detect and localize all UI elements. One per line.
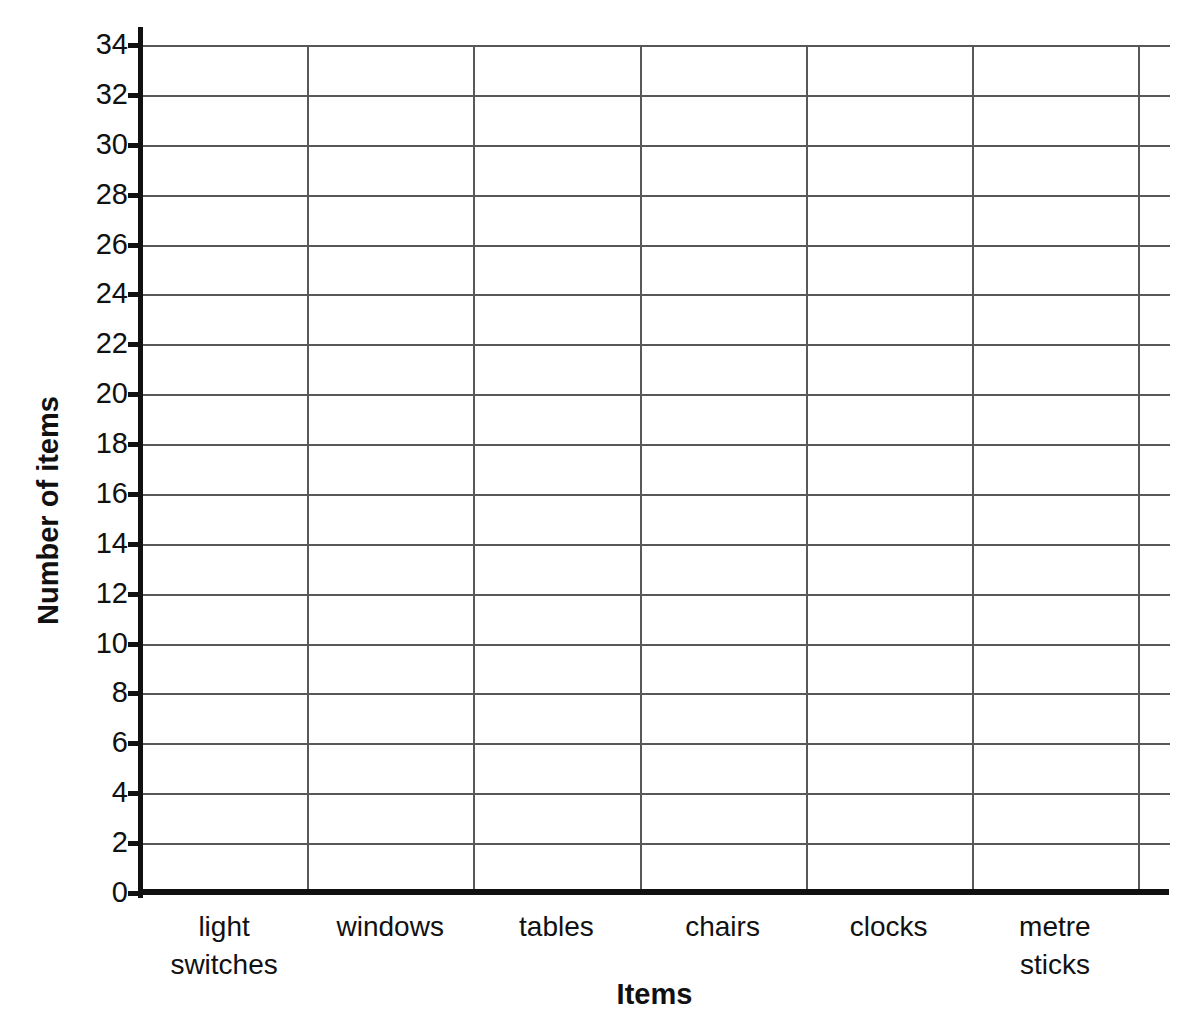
y-axis-tick <box>128 143 142 148</box>
y-axis-tick <box>128 841 142 846</box>
y-axis-tick <box>128 243 142 248</box>
gridline-horizontal <box>141 594 1170 596</box>
x-axis-category-label: clocks <box>806 908 972 946</box>
gridline-vertical <box>640 45 642 893</box>
x-axis-category-label-line: tables <box>473 908 639 946</box>
x-axis-category-label-line: clocks <box>806 908 972 946</box>
y-axis-tick-label: 22 <box>8 329 128 358</box>
y-axis-tick-label: 34 <box>8 30 128 59</box>
y-axis-tick-label: 16 <box>8 479 128 508</box>
y-axis-tick-label: 28 <box>8 180 128 209</box>
y-axis-tick-label: 14 <box>8 529 128 558</box>
y-axis-tick <box>128 791 142 796</box>
gridline-horizontal <box>141 95 1170 97</box>
y-axis-tick-label: 6 <box>8 728 128 757</box>
y-axis-tick-label: 32 <box>8 80 128 109</box>
x-axis-category-label-line: windows <box>307 908 473 946</box>
gridline-horizontal <box>141 743 1170 745</box>
gridline-horizontal <box>141 644 1170 646</box>
x-axis-category-label: lightswitches <box>141 908 307 984</box>
y-axis-tick-label: 26 <box>8 230 128 259</box>
gridline-vertical <box>806 45 808 893</box>
gridline-horizontal <box>141 294 1170 296</box>
y-axis-tick <box>128 193 142 198</box>
gridline-horizontal <box>141 195 1170 197</box>
gridline-vertical <box>473 45 475 893</box>
gridline-horizontal <box>141 45 1170 47</box>
y-axis-tick-label: 10 <box>8 629 128 658</box>
gridline-horizontal <box>141 444 1170 446</box>
y-axis-tick-label: 0 <box>8 878 128 907</box>
y-axis-line <box>138 27 143 898</box>
y-axis-tick <box>128 93 142 98</box>
x-axis-category-label: chairs <box>640 908 806 946</box>
y-axis-tick-label: 12 <box>8 579 128 608</box>
chart-page: Number of items 024681012141618202224262… <box>0 0 1184 1021</box>
gridline-vertical <box>972 45 974 893</box>
x-axis-category-label-line: metre <box>972 908 1138 946</box>
x-axis-category-label: metresticks <box>972 908 1138 984</box>
gridline-horizontal <box>141 344 1170 346</box>
gridline-horizontal <box>141 843 1170 845</box>
y-axis-tick <box>128 442 142 447</box>
y-axis-tick <box>128 392 142 397</box>
gridline-horizontal <box>141 494 1170 496</box>
y-axis-tick-label: 2 <box>8 828 128 857</box>
y-axis-tick-label: 20 <box>8 379 128 408</box>
x-axis-category-label: windows <box>307 908 473 946</box>
y-axis-tick <box>128 592 142 597</box>
gridline-horizontal <box>141 693 1170 695</box>
x-axis-title: Items <box>141 978 1168 1011</box>
y-axis-tick <box>128 741 142 746</box>
x-axis-category-label-line: chairs <box>640 908 806 946</box>
y-axis-tick-label: 18 <box>8 429 128 458</box>
gridline-vertical <box>1138 45 1140 893</box>
y-axis-tick <box>128 642 142 647</box>
gridline-horizontal <box>141 394 1170 396</box>
y-axis-tick-label: 30 <box>8 130 128 159</box>
x-axis-category-label-line: light <box>141 908 307 946</box>
y-axis-tick <box>128 542 142 547</box>
x-axis-category-label: tables <box>473 908 639 946</box>
gridline-horizontal <box>141 245 1170 247</box>
plot-area <box>141 45 1170 893</box>
y-axis-tick <box>128 691 142 696</box>
y-axis-tick <box>128 292 142 297</box>
y-axis-tick-label: 4 <box>8 778 128 807</box>
y-axis-tick <box>128 891 142 896</box>
gridline-horizontal <box>141 793 1170 795</box>
y-axis-tick-label: 24 <box>8 279 128 308</box>
x-axis-line <box>138 889 1169 895</box>
y-axis-tick-label: 8 <box>8 678 128 707</box>
gridline-vertical <box>307 45 309 893</box>
y-axis-tick <box>128 492 142 497</box>
y-axis-tick <box>128 342 142 347</box>
gridline-horizontal <box>141 145 1170 147</box>
gridline-horizontal <box>141 544 1170 546</box>
y-axis-tick <box>128 43 142 48</box>
